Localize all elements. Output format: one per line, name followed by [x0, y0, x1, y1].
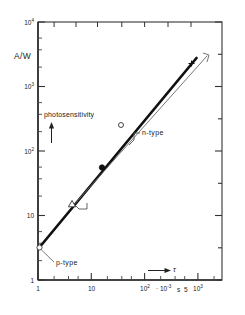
x-extra-tick-label-5: 5: [184, 287, 188, 294]
x-tick-label-1: 1: [32, 285, 44, 293]
x-tick-label-1000: 103: [189, 285, 207, 293]
y-tick-exp-10000: 4: [31, 18, 34, 23]
photosensitivity-arrow-icon: [49, 122, 54, 143]
y-tick-base-1: 1: [30, 277, 34, 284]
x-unit-suffix: s: [177, 287, 180, 294]
x-tick-label-10: 10: [84, 285, 99, 293]
photosensitivity-log-log-chart: A/W 104 103 102 10 1 1 10 102 103 · 10-3…: [0, 0, 245, 315]
data-point-filled-circle: [99, 165, 104, 170]
x-unit-exponent: -3: [167, 284, 171, 289]
y-tick-label-1000: 103: [16, 83, 34, 91]
y-tick-label-10: 10: [18, 212, 34, 220]
y-tick-exp-1000: 3: [31, 82, 34, 87]
y-axis-title: A/W: [14, 52, 31, 61]
x-unit-base: · 10: [156, 285, 167, 292]
series-line-p-type: [39, 58, 197, 249]
tau-arrow-icon: [148, 268, 171, 273]
p-type-label: p-type: [56, 259, 78, 266]
p-type-leader-line: [42, 250, 55, 262]
y-tick-label-100: 102: [16, 148, 34, 156]
x-tick-base-10: 10: [88, 285, 95, 292]
n-type-label: n-type: [142, 129, 164, 136]
photosensitivity-label: photosensitivity: [44, 111, 94, 118]
x-tick-base-1: 1: [36, 285, 40, 292]
y-tick-label-10000: 104: [16, 19, 34, 27]
data-point-open-circle-origin: [37, 245, 42, 250]
top-axis-ticks: [54, 22, 191, 27]
x-tick-exp-100: 2: [147, 284, 150, 289]
x-tick-label-100: 102: [136, 285, 154, 293]
data-point-open-circle-mid: [119, 123, 124, 128]
y-tick-base-10: 10: [27, 212, 34, 219]
series-line-n-type: [72, 56, 207, 207]
x-unit-annotation: · 10-3: [156, 285, 171, 293]
x-major-ticks: [38, 273, 198, 280]
chart-canvas: [0, 0, 245, 315]
y-tick-exp-100: 2: [31, 147, 34, 152]
y-tick-label-1: 1: [22, 277, 34, 285]
x-tick-exp-1000: 3: [200, 284, 203, 289]
x-axis-title-tau: τ: [173, 266, 176, 274]
right-axis-ticks: [215, 22, 222, 280]
